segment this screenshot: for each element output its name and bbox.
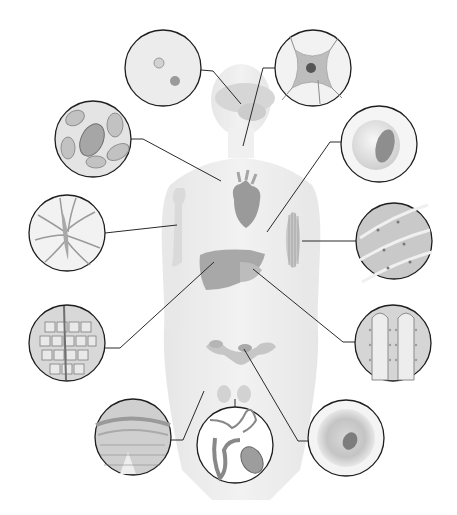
- diagram-canvas: [0, 0, 457, 515]
- inset-liver-epithelium: [29, 305, 105, 381]
- inset-egg-cell: [308, 400, 384, 476]
- cell-types-diagram: [0, 0, 457, 515]
- inset-fat-cell: [341, 106, 417, 182]
- inset-skin-epithelium: [95, 399, 171, 475]
- inset-blood-cells: [55, 101, 132, 177]
- inset-nerve-cell: [275, 30, 351, 106]
- inset-skeletal-muscle: [356, 203, 432, 282]
- arm-muscle: [286, 212, 300, 268]
- inset-bone-cells: [125, 30, 201, 106]
- inset-sperm-cell: [197, 407, 273, 483]
- inset-intestinal-lining: [355, 305, 431, 381]
- inset-connective-cells: [29, 195, 105, 271]
